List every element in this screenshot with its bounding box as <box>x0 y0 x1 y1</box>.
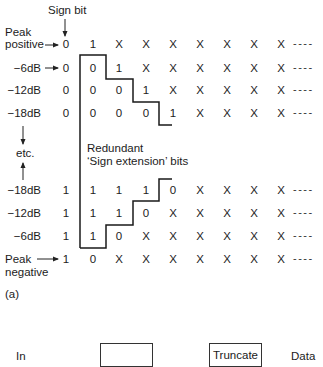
bit-cell: X <box>166 62 180 75</box>
bit-cell: X <box>247 84 261 97</box>
bit-cell: 0 <box>59 62 73 75</box>
bit-cell: X <box>139 253 153 266</box>
bit-cell: X <box>193 230 207 243</box>
bit-cell: X <box>274 107 288 120</box>
bit-cell: X <box>112 253 126 266</box>
bit-cell: 1 <box>86 38 100 51</box>
bit-cell: 0 <box>166 184 180 197</box>
row-label-minus12db-bottom: −12dB <box>7 207 41 220</box>
continuation-dashes: ---- <box>293 252 314 265</box>
bit-cell: X <box>220 207 234 220</box>
bit-cell: 0 <box>86 84 100 97</box>
row-label-minus12db-top: −12dB <box>7 84 41 97</box>
bit-cell: X <box>274 62 288 75</box>
row-label-minus6db-top: −6dB <box>14 62 41 75</box>
bit-cell: 1 <box>139 84 153 97</box>
bit-cell: 0 <box>59 107 73 120</box>
continuation-dashes: ---- <box>293 183 314 196</box>
part-label: (a) <box>5 288 19 301</box>
bit-cell: 0 <box>86 107 100 120</box>
bit-cell: X <box>220 230 234 243</box>
bit-cell: X <box>247 253 261 266</box>
bit-cell: X <box>247 230 261 243</box>
bit-cell: 0 <box>112 230 126 243</box>
bit-cell: X <box>193 38 207 51</box>
bit-cell: X <box>247 207 261 220</box>
bit-cell: 1 <box>166 107 180 120</box>
bit-cell: X <box>220 184 234 197</box>
continuation-dashes: ---- <box>293 61 314 74</box>
bit-cell: X <box>247 184 261 197</box>
bit-cell: X <box>220 38 234 51</box>
continuation-dashes: ---- <box>293 106 314 119</box>
bit-cell: X <box>166 84 180 97</box>
bit-cell: X <box>193 253 207 266</box>
bit-cell: X <box>274 253 288 266</box>
bit-cell: 1 <box>112 62 126 75</box>
bit-cell: X <box>274 207 288 220</box>
bit-cell: 1 <box>112 207 126 220</box>
sign-bit-label: Sign bit <box>48 4 86 17</box>
row-label-minus18db-bottom: −18dB <box>7 184 41 197</box>
bit-cell: X <box>247 62 261 75</box>
bit-cell: X <box>166 253 180 266</box>
bit-cell: X <box>112 38 126 51</box>
bit-cell: 1 <box>112 184 126 197</box>
continuation-dashes: ---- <box>293 229 314 242</box>
bit-cell: X <box>139 62 153 75</box>
bit-cell: X <box>193 184 207 197</box>
in-label: In <box>16 350 26 363</box>
bit-cell: 1 <box>86 184 100 197</box>
bit-cell: X <box>220 62 234 75</box>
bit-cell: 1 <box>86 207 100 220</box>
bit-cell: 0 <box>139 207 153 220</box>
bit-cell: X <box>220 253 234 266</box>
continuation-dashes: ---- <box>293 83 314 96</box>
bit-cell: 1 <box>59 184 73 197</box>
processing-block <box>100 343 153 367</box>
bit-cell: X <box>166 230 180 243</box>
bit-cell: 1 <box>59 230 73 243</box>
bit-cell: 0 <box>59 38 73 51</box>
etc-label: etc. <box>16 147 35 160</box>
truncate-block: Truncate <box>209 343 262 367</box>
bit-cell: X <box>220 84 234 97</box>
row-label-peak-positive-line2: positive <box>5 38 44 51</box>
bit-cell: X <box>274 84 288 97</box>
bit-cell: X <box>139 230 153 243</box>
bit-cell: X <box>193 62 207 75</box>
annotation-line1: Redundant <box>87 142 143 155</box>
row-label-peak-negative-line1: Peak <box>5 253 31 266</box>
row-label-minus6db-bottom: −6dB <box>14 230 41 243</box>
bit-cell: X <box>193 107 207 120</box>
bit-cell: X <box>193 207 207 220</box>
bit-cell: X <box>166 207 180 220</box>
row-label-peak-negative-line2: negative <box>5 266 48 279</box>
bit-cell: 1 <box>59 207 73 220</box>
bit-cell: 0 <box>112 107 126 120</box>
bit-cell: 0 <box>86 62 100 75</box>
truncate-block-label: Truncate <box>210 349 261 362</box>
continuation-dashes: ---- <box>293 206 314 219</box>
bit-cell: 1 <box>139 184 153 197</box>
bit-cell: X <box>247 107 261 120</box>
continuation-dashes: ---- <box>293 37 314 50</box>
bit-cell: X <box>274 38 288 51</box>
bit-cell: 0 <box>139 107 153 120</box>
bit-cell: 0 <box>112 84 126 97</box>
bit-cell: 1 <box>59 253 73 266</box>
bit-cell: X <box>274 184 288 197</box>
annotation-line2: ‘Sign extension’ bits <box>87 155 188 168</box>
data-label: Data <box>291 350 315 363</box>
bit-cell: X <box>139 38 153 51</box>
bit-cell: 1 <box>86 230 100 243</box>
bit-cell: X <box>193 84 207 97</box>
bit-cell: 0 <box>59 84 73 97</box>
row-label-minus18db-top: −18dB <box>7 107 41 120</box>
bit-cell: 0 <box>86 253 100 266</box>
bit-cell: X <box>220 107 234 120</box>
bit-cell: X <box>166 38 180 51</box>
bit-cell: X <box>274 230 288 243</box>
